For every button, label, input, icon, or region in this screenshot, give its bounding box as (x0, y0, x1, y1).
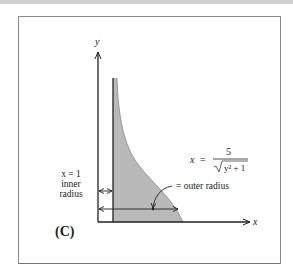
outer-radius-label: = outer radius (176, 181, 229, 191)
equation-lhs: x (189, 154, 195, 165)
y-axis-label: y (94, 36, 100, 47)
x-axis-label: x (252, 216, 258, 227)
shaded-region (113, 78, 183, 222)
diagram: y x x = 5 y² + 1 = outer radius x = 1 in… (0, 0, 293, 275)
inner-label-line3: radius (59, 189, 83, 199)
panel-label: (C) (55, 224, 75, 240)
inner-label-line1: x = 1 (61, 169, 81, 179)
equation-numerator: 5 (226, 146, 231, 157)
curve-equation: x = 5 y² + 1 (189, 146, 248, 173)
equation-equals: = (200, 154, 206, 165)
inner-label-line2: inner (61, 179, 81, 189)
equation-denominator: y² + 1 (224, 163, 245, 173)
